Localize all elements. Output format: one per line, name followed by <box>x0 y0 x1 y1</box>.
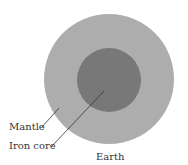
iron-core-label: Iron core <box>9 140 56 151</box>
iron-core-layer <box>77 48 141 112</box>
mantle-label: Mantle <box>9 121 45 132</box>
earth-diagram: Mantle Iron core Earth <box>0 0 188 165</box>
earth-caption: Earth <box>96 151 125 162</box>
